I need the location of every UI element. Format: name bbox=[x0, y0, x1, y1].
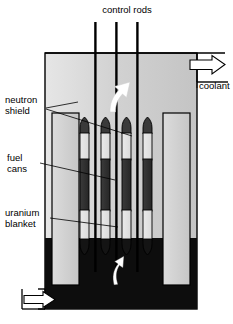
fuel-can-core bbox=[101, 159, 110, 211]
fuel-column bbox=[80, 117, 89, 255]
uranium-blanket-upper bbox=[122, 133, 131, 160]
fuel-column bbox=[122, 117, 131, 255]
uranium-blanket-upper bbox=[101, 133, 110, 160]
control-rod bbox=[115, 22, 117, 272]
uranium-blanket-lower bbox=[80, 210, 89, 240]
control-rod bbox=[136, 22, 138, 272]
label-uranium-blanket-line2: blanket bbox=[5, 218, 39, 229]
label-neutron-shield: neutron shield bbox=[5, 94, 37, 116]
label-fuel-cans-line1: fuel bbox=[7, 152, 27, 163]
uranium-blanket-upper bbox=[80, 133, 89, 160]
neutron-shield-right bbox=[163, 113, 190, 285]
label-uranium-blanket: uranium blanket bbox=[5, 207, 39, 229]
uranium-blanket-lower bbox=[122, 210, 131, 240]
label-fuel-cans: fuel cans bbox=[7, 152, 27, 174]
neutron-shield-left bbox=[52, 113, 79, 285]
reactor-diagram-svg bbox=[0, 0, 233, 324]
label-coolant: coolant bbox=[199, 80, 230, 91]
uranium-blanket-upper bbox=[143, 133, 152, 160]
label-uranium-blanket-line1: uranium bbox=[5, 207, 39, 218]
fuel-can-core bbox=[80, 159, 89, 211]
reactor-diagram: control rods coolant neutron shield fuel… bbox=[0, 0, 233, 324]
label-neutron-shield-line2: shield bbox=[5, 105, 37, 116]
label-fuel-cans-line2: cans bbox=[7, 163, 27, 174]
fuel-can-core bbox=[122, 159, 131, 211]
label-neutron-shield-line1: neutron bbox=[5, 94, 37, 105]
fuel-column bbox=[143, 117, 152, 255]
fuel-can-core bbox=[143, 159, 152, 211]
label-control-rods: control rods bbox=[84, 4, 170, 15]
control-rod bbox=[94, 22, 96, 272]
uranium-blanket-lower bbox=[143, 210, 152, 240]
fuel-column bbox=[101, 117, 110, 255]
